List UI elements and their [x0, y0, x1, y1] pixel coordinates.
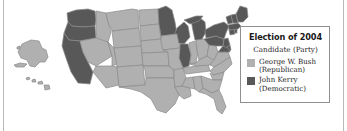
state-kansas: [142, 52, 169, 66]
legend-party-democratic: (Democratic): [259, 85, 306, 93]
state-hawaii-oahu: [32, 79, 36, 82]
state-alaska-isle-a: [17, 46, 20, 49]
state-alaska-aleutians: [14, 63, 27, 67]
legend-swatch-democratic: [247, 77, 255, 85]
state-alaska: [18, 40, 48, 67]
legend-party-republican: (Republican): [259, 66, 316, 74]
legend-label-republican: George W. Bush (Republican): [259, 58, 316, 74]
state-oklahoma: [143, 66, 174, 78]
state-iowa: [161, 34, 180, 50]
legend-swatch-republican: [247, 59, 255, 67]
legend-item-democratic: John Kerry (Democratic): [247, 76, 324, 92]
state-new-mexico: [117, 65, 145, 87]
state-colorado: [114, 46, 143, 67]
legend-title: Election of 2004: [247, 32, 324, 42]
state-north-dakota: [139, 9, 159, 26]
state-montana: [106, 9, 139, 31]
state-hawaii-kauai: [26, 77, 30, 80]
state-washington: [67, 9, 96, 27]
state-arizona: [93, 66, 119, 88]
state-south-dakota: [140, 24, 161, 41]
legend-subtitle: Candidate (Party): [247, 45, 324, 54]
election-map-figure: Election of 2004 Candidate (Party) Georg…: [0, 0, 347, 131]
state-wyoming: [112, 28, 141, 48]
legend-label-democratic: John Kerry (Democratic): [259, 76, 306, 92]
state-hawaii-big-island: [44, 85, 50, 90]
map-legend: Election of 2004 Candidate (Party) Georg…: [240, 26, 330, 103]
legend-item-republican: George W. Bush (Republican): [247, 58, 324, 74]
state-hawaii-maui: [38, 81, 43, 84]
state-new-york: [205, 22, 229, 39]
state-minnesota: [158, 6, 177, 36]
state-maine: [236, 6, 248, 22]
